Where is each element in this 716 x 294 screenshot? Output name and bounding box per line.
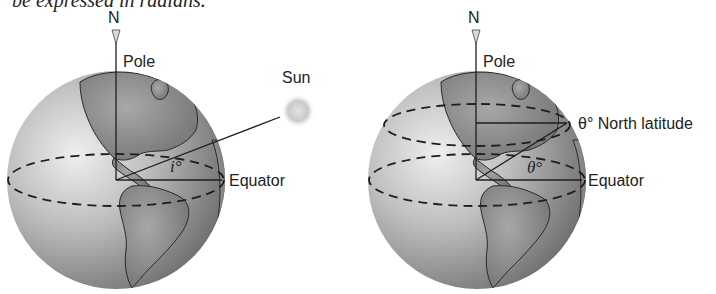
- north-label: N: [108, 9, 120, 26]
- equator-label: Equator: [588, 172, 645, 189]
- latitude-label: θ° North latitude: [578, 115, 693, 132]
- left-globe: N Pole Sun i° Equator: [7, 9, 315, 289]
- pole-marker-icon: [112, 30, 120, 44]
- north-label: N: [468, 9, 480, 26]
- earth-latitude-diagram: N Pole Sun i° Equator N Pole θ° North la…: [0, 0, 716, 294]
- pole-label: Pole: [483, 53, 515, 70]
- pole-marker-icon: [472, 30, 480, 44]
- angle-label: i°: [170, 157, 182, 176]
- equator-label: Equator: [229, 172, 286, 189]
- angle-label: θ°: [527, 158, 542, 177]
- pole-label: Pole: [123, 53, 155, 70]
- sun-icon: [281, 94, 315, 128]
- right-globe: N Pole θ° North latitude θ° Equator: [368, 9, 693, 289]
- sun-label: Sun: [282, 69, 310, 86]
